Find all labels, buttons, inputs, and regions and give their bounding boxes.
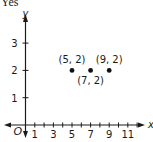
data-point <box>88 68 93 73</box>
y-tick-label: 1 <box>11 93 17 104</box>
x-axis-right-arrow-icon <box>138 123 145 128</box>
y-axis-down-arrow-icon <box>23 131 28 138</box>
y-tick-label: 3 <box>11 38 17 49</box>
data-point-label: (5, 2) <box>59 54 86 65</box>
x-tick-label: 7 <box>87 129 93 140</box>
y-tick-label: 2 <box>11 65 17 76</box>
x-tick-label: 9 <box>106 129 112 140</box>
origin-label: O <box>14 125 23 138</box>
data-point-label: (7, 2) <box>77 75 104 86</box>
data-point <box>107 68 112 73</box>
data-point <box>70 68 75 73</box>
data-point-label: (9, 2) <box>96 54 123 65</box>
x-tick-label: 5 <box>69 129 75 140</box>
coordinate-plane: xyO1357911123(5, 2)(7, 2)(9, 2) <box>0 0 153 142</box>
x-tick-label: 3 <box>50 129 56 140</box>
x-axis-left-arrow-icon <box>4 123 11 128</box>
x-tick-label: 1 <box>32 129 38 140</box>
y-axis-label: y <box>22 8 30 19</box>
x-axis-label: x <box>147 119 153 130</box>
x-tick-label: 11 <box>121 129 134 140</box>
